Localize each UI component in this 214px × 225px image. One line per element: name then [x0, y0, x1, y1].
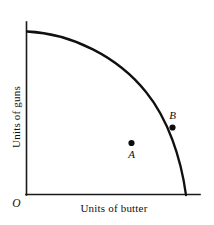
point-b-dot: [169, 124, 175, 130]
ppf-chart-svg: A B O Units of butter Units of guns: [0, 0, 214, 225]
point-a-label: A: [127, 148, 135, 160]
point-b-label: B: [169, 109, 176, 121]
point-a-dot: [128, 140, 134, 146]
ppf-figure: A B O Units of butter Units of guns: [0, 0, 214, 225]
x-axis-title: Units of butter: [80, 202, 147, 214]
ppf-curve: [27, 32, 186, 196]
origin-label: O: [12, 197, 21, 209]
y-axis-title: Units of guns: [10, 86, 22, 148]
